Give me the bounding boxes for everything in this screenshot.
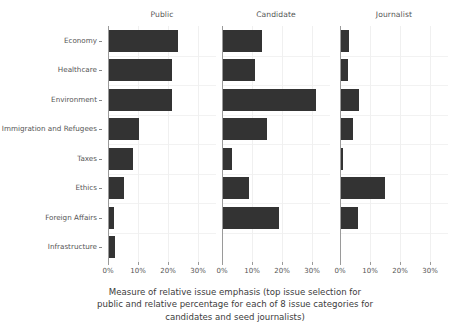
x-axis-public: 0%10%20%30% xyxy=(108,262,216,284)
bar-journalist-environment xyxy=(341,89,359,111)
bar-candidate-taxes xyxy=(223,148,232,170)
bar-journalist-healthcare xyxy=(341,59,348,81)
y-axis-label-taxes: Taxes xyxy=(77,153,97,165)
gridline-horizontal xyxy=(222,203,330,204)
y-axis-labels: EconomyHealthcareEnvironmentImmigration … xyxy=(0,0,105,268)
x-axis-journalist: 0%10%20%30% xyxy=(340,262,448,284)
panel-title-candidate: Candidate xyxy=(222,10,330,19)
bar-journalist-immigration-and-refugees xyxy=(341,118,353,140)
gridline-horizontal xyxy=(222,233,330,234)
gridline-horizontal xyxy=(340,233,448,234)
panel-canvas xyxy=(108,26,216,262)
y-axis-tick xyxy=(99,159,102,160)
y-axis-label-foreign-affairs: Foreign Affairs xyxy=(45,212,97,224)
bar-public-environment xyxy=(109,89,172,111)
gridline-horizontal xyxy=(108,85,216,86)
y-axis-tick xyxy=(99,129,102,130)
gridline-horizontal xyxy=(108,174,216,175)
gridline-horizontal xyxy=(222,56,330,57)
x-axis-tick xyxy=(108,262,109,265)
gridline-vertical xyxy=(400,26,401,262)
caption-line-3: candidates and seed journalists) xyxy=(60,311,410,323)
bar-candidate-healthcare xyxy=(223,59,255,81)
x-axis-tick xyxy=(400,262,401,265)
y-axis-tick xyxy=(99,41,102,42)
x-axis-tick xyxy=(168,262,169,265)
gridline-vertical xyxy=(430,26,431,262)
x-axis-tick-label: 20% xyxy=(274,267,290,275)
y-axis-tick xyxy=(99,247,102,248)
bar-public-economy xyxy=(109,30,178,52)
x-axis-tick xyxy=(198,262,199,265)
x-axis-tick xyxy=(138,262,139,265)
x-axis-tick xyxy=(430,262,431,265)
bar-journalist-ethics xyxy=(341,177,385,199)
caption-line-1: Measure of relative issue emphasis (top … xyxy=(60,286,410,298)
y-axis-label-immigration-and-refugees: Immigration and Refugees xyxy=(2,123,97,135)
gridline-horizontal xyxy=(222,85,330,86)
gridline-vertical xyxy=(312,26,313,262)
gridline-horizontal xyxy=(108,56,216,57)
y-axis-tick xyxy=(99,70,102,71)
gridline-horizontal xyxy=(340,144,448,145)
gridline-horizontal xyxy=(108,233,216,234)
x-axis-tick-label: 0% xyxy=(216,267,227,275)
gridline-horizontal xyxy=(222,174,330,175)
gridline-horizontal xyxy=(340,174,448,175)
x-axis-tick-label: 20% xyxy=(160,267,176,275)
bar-candidate-ethics xyxy=(223,177,249,199)
x-axis-tick xyxy=(222,262,223,265)
bar-journalist-taxes xyxy=(341,148,343,170)
y-axis-label-healthcare: Healthcare xyxy=(58,64,97,76)
gridline-horizontal xyxy=(108,115,216,116)
x-axis-tick-label: 0% xyxy=(102,267,113,275)
gridline-vertical xyxy=(198,26,199,262)
gridline-horizontal xyxy=(222,144,330,145)
panel-public: Public0%10%20%30% xyxy=(108,0,216,268)
panel-title-public: Public xyxy=(108,10,216,19)
x-axis-tick-label: 10% xyxy=(244,267,260,275)
x-axis-tick-label: 10% xyxy=(362,267,378,275)
x-axis-tick xyxy=(370,262,371,265)
panel-canvas xyxy=(222,26,330,262)
bar-candidate-economy xyxy=(223,30,262,52)
bar-public-infrastructure xyxy=(109,236,115,258)
x-axis-tick-label: 0% xyxy=(334,267,345,275)
y-axis-label-infrastructure: Infrastructure xyxy=(48,241,97,253)
bar-public-foreign-affairs xyxy=(109,207,114,229)
gridline-horizontal xyxy=(340,203,448,204)
gridline-horizontal xyxy=(108,203,216,204)
panel-candidate: Candidate0%10%20%30% xyxy=(222,0,330,268)
gridline-vertical xyxy=(370,26,371,262)
gridline-horizontal xyxy=(108,144,216,145)
bar-public-ethics xyxy=(109,177,124,199)
x-axis-tick-label: 30% xyxy=(190,267,206,275)
gridline-vertical xyxy=(282,26,283,262)
bar-journalist-foreign-affairs xyxy=(341,207,358,229)
x-axis-tick-label: 20% xyxy=(392,267,408,275)
bar-public-taxes xyxy=(109,148,133,170)
gridline-horizontal xyxy=(340,85,448,86)
y-axis-tick xyxy=(99,100,102,101)
x-axis-tick-label: 30% xyxy=(422,267,438,275)
chart-figure: EconomyHealthcareEnvironmentImmigration … xyxy=(0,0,470,330)
gridline-horizontal xyxy=(340,115,448,116)
x-axis-tick-label: 30% xyxy=(304,267,320,275)
panel-journalist: Journalist0%10%20%30% xyxy=(340,0,448,268)
bar-journalist-economy xyxy=(341,30,349,52)
x-axis-tick xyxy=(340,262,341,265)
bar-candidate-immigration-and-refugees xyxy=(223,118,267,140)
panel-canvas xyxy=(340,26,448,262)
bar-candidate-foreign-affairs xyxy=(223,207,279,229)
y-axis-label-environment: Environment xyxy=(51,94,97,106)
x-axis-tick xyxy=(282,262,283,265)
x-axis-caption: Measure of relative issue emphasis (top … xyxy=(60,286,410,323)
gridline-horizontal xyxy=(222,115,330,116)
bar-candidate-environment xyxy=(223,89,316,111)
bar-public-healthcare xyxy=(109,59,172,81)
caption-line-2: public and relative percentage for each … xyxy=(60,298,410,310)
x-axis-tick xyxy=(312,262,313,265)
y-axis-tick xyxy=(99,188,102,189)
bar-public-immigration-and-refugees xyxy=(109,118,139,140)
gridline-horizontal xyxy=(340,56,448,57)
